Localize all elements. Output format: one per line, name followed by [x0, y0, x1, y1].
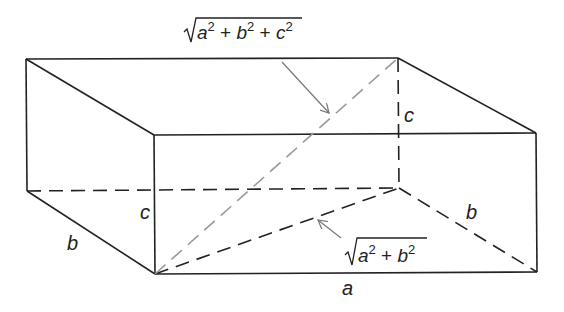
box-diagram: a b b c c a2 + b2 + c2 a2 + b2 [0, 0, 564, 312]
edge-back-left-vertical [26, 59, 27, 191]
edge-bottom-left [27, 191, 155, 274]
edge-top-back [26, 58, 398, 59]
edge-top-front [154, 133, 536, 135]
svg-text:a2 + b2 + c2: a2 + b2 + c2 [197, 19, 293, 43]
space-diagonal-formula: a2 + b2 + c2 [184, 18, 302, 43]
edge-back-right-vertical-hidden [398, 58, 399, 188]
label-c-back: c [404, 104, 414, 126]
edge-bottom-front [155, 272, 537, 274]
label-b-right: b [466, 201, 477, 223]
label-c-front: c [140, 201, 150, 223]
svg-text:a2 + b2: a2 + b2 [358, 242, 415, 266]
space-diagonal [155, 58, 398, 274]
edge-top-right [398, 58, 536, 133]
base-diagonal-formula: a2 + b2 [345, 238, 427, 266]
base-diagonal-arrow [318, 220, 341, 238]
box-solid-edges [26, 58, 537, 274]
edge-top-left [26, 59, 154, 135]
edge-bottom-back-hidden [27, 188, 399, 191]
space-diagonal-arrow [282, 62, 329, 113]
edge-front-right-vertical [536, 133, 537, 272]
label-a: a [342, 277, 353, 299]
edge-front-left-vertical [154, 135, 155, 274]
label-b-left: b [67, 232, 78, 254]
